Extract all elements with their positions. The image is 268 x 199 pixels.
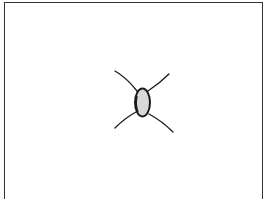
appendage-bottom-left [115,112,136,128]
oval-body [135,89,150,117]
appendage-top-right [148,74,169,91]
seed-figure [0,0,268,199]
appendage-bottom-right [149,114,173,132]
appendage-top-left [115,71,137,91]
